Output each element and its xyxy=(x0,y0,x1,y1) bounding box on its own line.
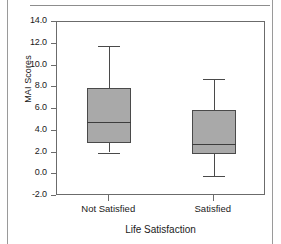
whisker-upper-cap xyxy=(203,79,225,80)
y-axis-tick-label: 6.0 xyxy=(35,102,47,112)
x-axis-tick-label: Not Satisfied xyxy=(48,203,168,214)
y-axis-tick: 8.0 xyxy=(0,86,56,87)
whisker-upper-line xyxy=(214,79,215,111)
y-axis-tick-label: 0.0 xyxy=(35,167,47,177)
y-axis-tick-label: 12.0 xyxy=(30,37,47,47)
y-axis-tick-label: 14.0 xyxy=(30,15,47,25)
whisker-lower-line xyxy=(214,154,215,177)
y-axis-tick: 6.0 xyxy=(0,108,56,109)
top-divider-rule xyxy=(30,5,270,6)
box-iqr xyxy=(192,110,236,154)
y-axis-tick-label: 10.0 xyxy=(30,59,47,69)
whisker-lower-cap xyxy=(98,153,120,154)
y-axis-tick-label: 2.0 xyxy=(35,146,47,156)
y-axis-tick-label: 8.0 xyxy=(35,80,47,90)
y-axis-tick: 10.0 xyxy=(0,65,56,66)
y-axis-tick-label: -2.0 xyxy=(32,189,47,199)
x-axis-tick-label: Satisfied xyxy=(153,203,273,214)
median-line xyxy=(192,144,236,145)
y-axis-tick: 14.0 xyxy=(0,21,56,22)
box-iqr xyxy=(87,88,131,142)
x-axis-tick-mark xyxy=(108,195,109,201)
y-axis-tick-mark xyxy=(51,195,56,196)
y-axis-tick: 4.0 xyxy=(0,130,56,131)
y-axis-tick: 2.0 xyxy=(0,152,56,153)
x-axis-title: Life Satisfaction xyxy=(56,224,265,235)
whisker-upper-cap xyxy=(98,46,120,47)
y-axis-title: MAI Scores xyxy=(23,44,33,114)
y-axis-tick: 12.0 xyxy=(0,43,56,44)
median-line xyxy=(87,122,131,123)
whisker-upper-line xyxy=(109,46,110,88)
y-axis-tick-label: 4.0 xyxy=(35,124,47,134)
y-axis-tick: -2.0 xyxy=(0,195,56,196)
whisker-lower-cap xyxy=(203,176,225,177)
x-axis-tick-mark xyxy=(213,195,214,201)
whisker-lower-line xyxy=(109,143,110,153)
plot-area-frame xyxy=(56,21,265,195)
y-axis-tick: 0.0 xyxy=(0,173,56,174)
